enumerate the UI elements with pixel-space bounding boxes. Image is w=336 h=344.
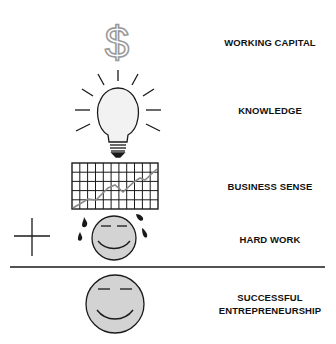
label-working-capital: WORKING CAPITAL bbox=[200, 36, 336, 49]
grid-chart-icon bbox=[72, 163, 158, 209]
label-result-line2: ENTREPRENEURSHIP bbox=[200, 304, 336, 317]
svg-text:$: $ bbox=[105, 18, 129, 67]
sweating-smiley-icon bbox=[78, 214, 147, 260]
smiley-face-icon bbox=[86, 275, 144, 333]
label-business-sense: BUSINESS SENSE bbox=[200, 180, 336, 193]
label-knowledge: KNOWLEDGE bbox=[200, 104, 336, 117]
plus-icon bbox=[14, 218, 50, 256]
dollar-sign-icon: $ bbox=[105, 18, 129, 67]
label-hard-work: HARD WORK bbox=[200, 233, 336, 246]
light-bulb-icon bbox=[75, 70, 161, 157]
label-result-line1: SUCCESSFUL bbox=[200, 291, 336, 304]
